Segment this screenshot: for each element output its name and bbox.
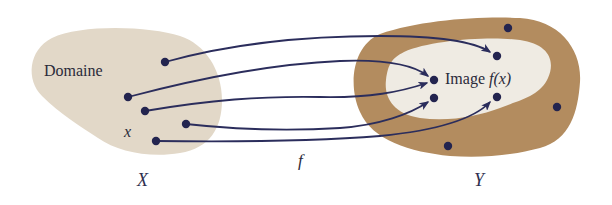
domain-point — [124, 93, 132, 101]
codomain-point — [504, 24, 512, 32]
domain-label: Domaine — [44, 63, 103, 79]
image-point — [493, 52, 501, 60]
image-label-math: f(x) — [489, 70, 511, 87]
image-point — [493, 93, 501, 101]
diagram-canvas — [0, 0, 612, 205]
function-name: f — [298, 152, 303, 169]
domain-point — [141, 107, 149, 115]
element-label: x — [124, 124, 131, 140]
image-point — [430, 94, 438, 102]
image-label: Image f(x) — [445, 71, 511, 87]
codomain-point — [444, 142, 452, 150]
domain-point — [161, 58, 169, 66]
image-point — [430, 76, 438, 84]
domain-set-name: X — [137, 171, 148, 189]
domain-point — [152, 137, 160, 145]
domain-point — [182, 120, 190, 128]
codomain-point — [553, 103, 561, 111]
codomain-set-name: Y — [474, 171, 484, 189]
image-label-text: Image — [445, 70, 489, 87]
function-mapping-diagram: Domaine Image f(x) x X f Y — [0, 0, 612, 205]
